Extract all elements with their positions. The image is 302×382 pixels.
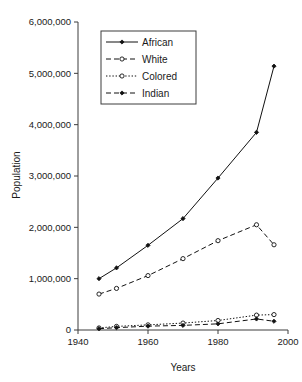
x-axis-title: Years — [170, 362, 195, 373]
y-tick-label: 3,000,000 — [29, 170, 71, 181]
data-point-white — [272, 243, 276, 247]
data-point-indian — [272, 319, 276, 323]
x-tick-label: 1980 — [207, 336, 228, 347]
x-tick-label: 1960 — [137, 336, 158, 347]
legend-label-colored: Colored — [142, 71, 177, 82]
data-point-white — [97, 292, 101, 296]
y-tick-label: 4,000,000 — [29, 119, 71, 130]
data-point-white — [181, 257, 185, 261]
data-point-colored — [272, 313, 276, 317]
data-point-white — [146, 273, 150, 277]
y-axis-ticks: 01,000,0002,000,0003,000,0004,000,0005,0… — [29, 16, 78, 335]
y-tick-label: 6,000,000 — [29, 16, 71, 27]
x-tick-label: 1940 — [67, 336, 88, 347]
series-line-indian — [99, 319, 274, 329]
legend-marker-colored — [120, 74, 124, 78]
chart-canvas: 01,000,0002,000,0003,000,0004,000,0005,0… — [0, 0, 302, 382]
series-line-colored — [99, 315, 274, 328]
y-tick-label: 5,000,000 — [29, 68, 71, 79]
y-tick-label: 1,000,000 — [29, 273, 71, 284]
legend-label-white: White — [142, 54, 168, 65]
legend-label-indian: Indian — [142, 88, 169, 99]
x-axis: 1940196019802000 Years — [67, 330, 298, 373]
data-point-white — [216, 239, 220, 243]
data-point-white — [254, 223, 258, 227]
series-white — [97, 223, 276, 297]
series-indian — [97, 317, 276, 331]
y-axis: 01,000,0002,000,0003,000,0004,000,0005,0… — [11, 16, 78, 335]
population-line-chart: 01,000,0002,000,0003,000,0004,000,0005,0… — [0, 0, 302, 382]
y-tick-label: 0 — [66, 324, 71, 335]
legend-label-african: African — [142, 37, 173, 48]
chart-legend: AfricanWhiteColoredIndian — [101, 31, 196, 104]
data-point-african — [272, 64, 276, 68]
y-axis-title: Population — [11, 151, 22, 198]
data-point-indian — [254, 317, 258, 321]
data-point-white — [114, 286, 118, 290]
legend-marker-white — [120, 57, 124, 61]
y-tick-label: 2,000,000 — [29, 222, 71, 233]
series-line-white — [99, 225, 274, 294]
x-axis-ticks: 1940196019802000 — [67, 330, 298, 347]
x-tick-label: 2000 — [277, 336, 298, 347]
